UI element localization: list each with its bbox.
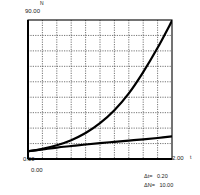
x-axis-min-tick-label: 0.00 bbox=[31, 167, 43, 173]
x-axis-max-tick-label: 2.00 bbox=[172, 155, 184, 161]
delta-t-label: Δt= bbox=[144, 173, 152, 179]
y-axis-title: N bbox=[40, 1, 44, 6]
delta-n-value: 10.00 bbox=[159, 182, 173, 188]
legend-row-delta-n: ΔN= 10.00 bbox=[144, 181, 173, 190]
y-axis-min-tick-label: 0.00 bbox=[23, 156, 35, 162]
delta-n-label: ΔN= bbox=[144, 182, 155, 188]
chart-figure: N 90.00 0.00 0.00 2.00 t Δt= 0.20 ΔN= 10… bbox=[0, 0, 200, 195]
legend-row-delta-t: Δt= 0.20 bbox=[144, 172, 173, 181]
plot-canvas bbox=[0, 0, 200, 195]
x-axis-title: t bbox=[190, 155, 191, 160]
chart-legend: Δt= 0.20 ΔN= 10.00 bbox=[144, 172, 173, 189]
y-axis-max-tick-label: 90.00 bbox=[25, 8, 40, 14]
delta-t-value: 0.20 bbox=[157, 173, 168, 179]
